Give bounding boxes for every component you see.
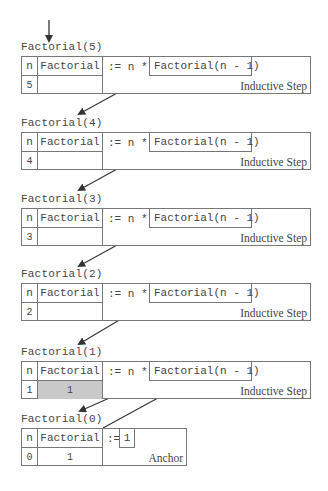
factorial-header: Factorial (38, 284, 103, 303)
frame-label: Factorial(2) (21, 268, 103, 280)
n-value: 4 (22, 152, 38, 170)
step-kind: Anchor (149, 452, 184, 464)
operator: := n * (108, 57, 148, 76)
factorial-value (38, 228, 103, 246)
step-kind: Inductive Step (240, 385, 307, 397)
n-value: 5 (22, 76, 38, 94)
anchor-value: 1 (119, 429, 135, 448)
factorial-value (38, 76, 103, 94)
factorial-value (38, 152, 103, 170)
factorial-value: 1 (38, 448, 103, 466)
frame-label: Factorial(1) (21, 346, 103, 358)
factorial-header: Factorial (38, 57, 103, 76)
n-header: n (22, 284, 38, 303)
n-header: n (22, 362, 38, 381)
operator: := n * (108, 362, 148, 381)
frame-factorial-4: n 4 Factorial := n * Factorial(n - 1) In… (21, 132, 311, 170)
n-value: 1 (22, 381, 38, 399)
frame-factorial-3: n 3 Factorial := n * Factorial(n - 1) In… (21, 208, 311, 246)
recursive-call: Factorial(n - 1) (149, 133, 252, 152)
n-value: 3 (22, 228, 38, 246)
factorial-value (38, 303, 103, 321)
factorial-header: Factorial (38, 429, 103, 448)
n-header: n (22, 209, 38, 228)
n-header: n (22, 57, 38, 76)
recursive-call: Factorial(n - 1) (149, 57, 252, 76)
n-value: 2 (22, 303, 38, 321)
n-header: n (22, 429, 38, 448)
factorial-header: Factorial (38, 133, 103, 152)
recursive-call: Factorial(n - 1) (149, 209, 252, 228)
step-kind: Inductive Step (240, 232, 307, 244)
frame-factorial-0-anchor: n 0 Factorial 1 := 1 Anchor (21, 428, 187, 466)
frame-label: Factorial(0) (21, 413, 103, 425)
operator: := n * (108, 133, 148, 152)
frame-label: Factorial(5) (21, 41, 103, 53)
operator: := n * (108, 284, 148, 303)
step-kind: Inductive Step (240, 80, 307, 92)
step-kind: Inductive Step (240, 156, 307, 168)
frame-label: Factorial(4) (21, 117, 103, 129)
frame-factorial-1: n 1 Factorial 1 := n * Factorial(n - 1) … (21, 361, 311, 399)
factorial-header: Factorial (38, 362, 103, 381)
factorial-header: Factorial (38, 209, 103, 228)
step-kind: Inductive Step (240, 307, 307, 319)
n-header: n (22, 133, 38, 152)
frame-factorial-5: n 5 Factorial := n * Factorial(n - 1) In… (21, 56, 311, 94)
frame-label: Factorial(3) (21, 193, 103, 205)
recursive-call: Factorial(n - 1) (149, 284, 252, 303)
n-value: 0 (22, 448, 38, 466)
operator: := n * (108, 209, 148, 228)
recursive-call: Factorial(n - 1) (149, 362, 252, 381)
frame-factorial-2: n 2 Factorial := n * Factorial(n - 1) In… (21, 283, 311, 321)
factorial-value-highlighted: 1 (38, 381, 103, 399)
